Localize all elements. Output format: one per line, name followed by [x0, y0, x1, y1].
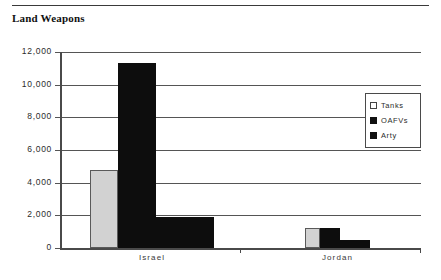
bar-jordan-arty: [340, 240, 370, 248]
y-axis-line: [60, 52, 62, 249]
y-tick-label-text: 8,000: [4, 111, 52, 121]
y-tick-label: 2,000: [0, 209, 52, 220]
legend-item-label: OAFVs: [381, 116, 408, 125]
y-tick-label: 6,000: [0, 144, 52, 155]
y-tick-label-text: 4,000: [4, 177, 52, 187]
bar-chart: 02,0004,0006,0008,00010,00012,000 Israel…: [0, 0, 441, 280]
legend-item-label: Tanks: [381, 101, 404, 110]
y-tick-label-text: 6,000: [4, 144, 52, 154]
y-tick-label-text: 10,000: [4, 79, 52, 89]
x-axis-label-jordan: Jordan: [298, 253, 378, 262]
y-tick-label: 4,000: [0, 177, 52, 188]
bar-israel-arty: [156, 217, 214, 248]
y-tick-label-text: 12,000: [4, 46, 52, 56]
y-tick-label: 8,000: [0, 111, 52, 122]
legend-swatch-icon: [370, 132, 377, 139]
gridline: [60, 85, 421, 86]
legend-item-arty[interactable]: Arty: [370, 128, 417, 143]
y-tick-label-text: 2,000: [4, 209, 52, 219]
bar-jordan-oafvs: [320, 228, 340, 248]
legend-swatch-icon: [370, 102, 377, 109]
x-axis-label-israel: Israel: [112, 253, 192, 262]
bar-israel-oafvs: [118, 63, 156, 248]
y-tick-label-text: 0: [4, 242, 52, 252]
y-tick-label: 10,000: [0, 79, 52, 90]
x-axis-endtick: [420, 248, 421, 253]
bar-israel-tanks: [90, 170, 118, 248]
legend[interactable]: TanksOAFVsArty: [365, 93, 421, 148]
legend-item-label: Arty: [381, 131, 397, 140]
gridline: [60, 150, 421, 151]
bar-jordan-tanks: [305, 228, 320, 248]
y-tick-label: 12,000: [0, 46, 52, 57]
legend-item-oafvs[interactable]: OAFVs: [370, 113, 417, 128]
y-tick-label: 0: [0, 242, 52, 253]
gridline: [60, 52, 421, 53]
x-axis-midtick: [240, 248, 241, 253]
legend-swatch-icon: [370, 117, 377, 124]
legend-item-tanks[interactable]: Tanks: [370, 98, 417, 113]
